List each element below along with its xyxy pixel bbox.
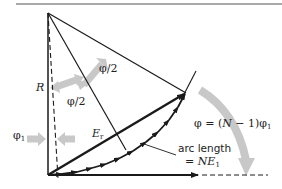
label-half-angle-lower: φ/2 xyxy=(67,95,85,108)
label-phase-step: φ1 xyxy=(13,129,25,143)
label-resultant: Er xyxy=(91,127,104,141)
arc-length-leader xyxy=(144,144,176,155)
phi1-arrow-left-head xyxy=(38,132,46,146)
total-phase-arrow-head xyxy=(238,158,255,176)
label-radius: R xyxy=(35,81,44,94)
radius-to-arc-mid xyxy=(48,13,126,150)
label-total-phase: φ = (N − 1)φ1 xyxy=(194,117,272,131)
radius-dashed xyxy=(48,13,58,178)
phi1-arrow-right-head xyxy=(57,132,65,146)
label-arc-length-2: = NE1 xyxy=(185,155,220,169)
half-angle-lower-arrow xyxy=(56,80,76,87)
label-arc-length-1: arc length xyxy=(178,142,231,154)
phasor-diagram: R φ/2 φ/2 φ1 Er φ = (N − 1)φ1 arc length… xyxy=(0,0,282,189)
label-half-angle-upper: φ/2 xyxy=(99,62,117,75)
